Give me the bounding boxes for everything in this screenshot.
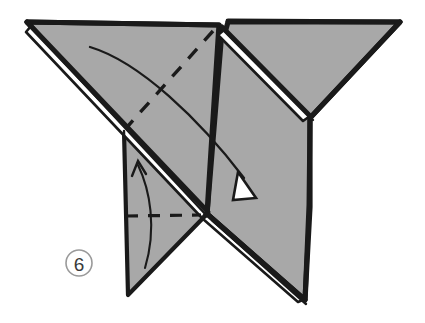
origami-diagram-figure: 6: [0, 0, 425, 323]
step-number-label: 6: [74, 254, 85, 275]
origami-illustration: 6: [0, 0, 425, 323]
right-wing-top-edge: [228, 21, 400, 22]
left-top-outer-edge: [27, 22, 219, 25]
